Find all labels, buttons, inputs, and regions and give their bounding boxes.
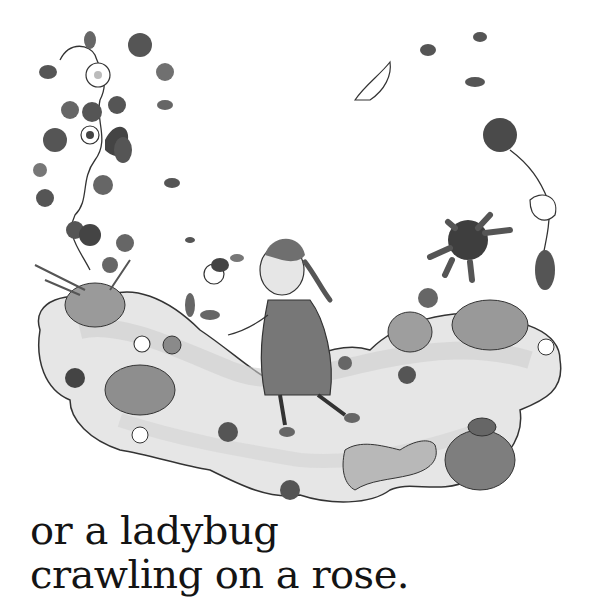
flying-animals — [355, 32, 487, 100]
caption-line-1: or a ladybug — [30, 508, 409, 552]
book-page: or a ladybug crawling on a rose. — [0, 0, 591, 609]
illustration — [0, 0, 591, 520]
flying-insects — [157, 100, 195, 243]
caption-line-2: crawling on a rose. — [30, 552, 409, 596]
sun-flower — [430, 215, 510, 280]
turtle — [468, 418, 496, 436]
caption: or a ladybug crawling on a rose. — [30, 508, 409, 596]
flower-vine-right — [483, 118, 556, 290]
flower-vine-left — [33, 31, 174, 273]
goat — [355, 62, 390, 100]
ladybug — [185, 254, 244, 320]
